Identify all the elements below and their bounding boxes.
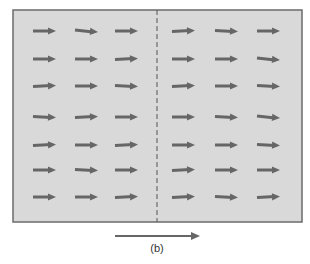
diagram-canvas xyxy=(0,0,310,264)
figure-caption: (b) xyxy=(147,242,167,254)
direction-arrow-head xyxy=(191,232,200,240)
